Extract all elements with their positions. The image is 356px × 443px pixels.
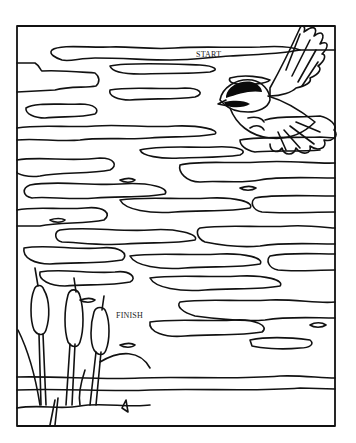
start-label: START <box>196 50 221 59</box>
water-ripples <box>17 46 335 348</box>
finish-label: FINISH <box>116 311 143 320</box>
cattails <box>18 268 128 425</box>
bird-eye-band <box>224 101 250 108</box>
shoreline <box>17 354 335 408</box>
maze-artwork <box>0 0 356 443</box>
